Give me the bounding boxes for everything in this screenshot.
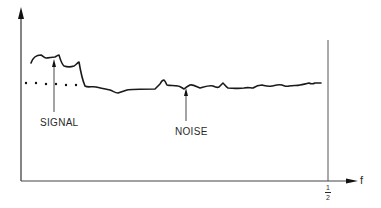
- noise-pointer: [184, 88, 188, 121]
- signal-pointer: [52, 59, 56, 112]
- x-axis-label: f: [360, 175, 363, 186]
- fraction-bar: [325, 192, 331, 193]
- signal-arrow-icon: [52, 59, 56, 67]
- noise-label: NOISE: [175, 127, 208, 137]
- x-tick-half: 1 2: [323, 184, 333, 201]
- x-tick-denominator: 2: [326, 194, 330, 201]
- spectrum-diagram: SIGNAL NOISE f 1 2: [0, 0, 381, 208]
- x-tick-numerator: 1: [326, 184, 330, 191]
- dotted-baseline: [25, 82, 77, 86]
- spectrum-curve: [31, 55, 321, 93]
- y-axis-arrow-icon: [18, 7, 24, 19]
- x-axis-arrow-icon: [346, 179, 358, 184]
- x-axis: [21, 179, 358, 184]
- signal-label: SIGNAL: [40, 118, 78, 128]
- y-axis: [18, 7, 24, 181]
